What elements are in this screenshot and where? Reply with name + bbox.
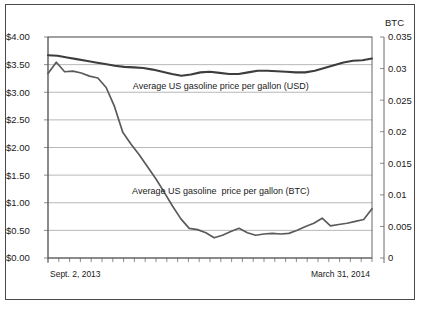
- y-axis-left-tick-label: $1.50: [6, 170, 30, 181]
- series-annotation-btc: Average US gasoline price per gallon (BT…: [132, 186, 309, 196]
- y-axis-left-tick-label: $4.00: [6, 31, 30, 42]
- y-axis-right-tick-label: 0.01: [388, 189, 407, 200]
- y-axis-left-tick-label: $3.00: [6, 87, 30, 98]
- y-axis-right-tick-label: 0.025: [388, 95, 412, 106]
- y-axis-left-tick-label: $0.00: [6, 252, 30, 263]
- y-axis-left-tick-label: $1.00: [6, 197, 30, 208]
- series-annotation-usd: Average US gasoline price per gallon (US…: [133, 81, 309, 91]
- line-chart-svg: $0.00$0.50$1.00$1.50$2.00$2.50$3.00$3.50…: [0, 0, 423, 311]
- y-axis-right-tick-label: 0.02: [388, 126, 407, 137]
- y-axis-right-tick-label: 0: [388, 252, 393, 263]
- x-axis-end-date-label: March 31, 2014: [311, 269, 370, 279]
- chart-root: $0.00$0.50$1.00$1.50$2.00$2.50$3.00$3.50…: [0, 0, 423, 311]
- y-axis-left-tick-label: $2.50: [6, 114, 30, 125]
- y-axis-right-tick-label: 0.005: [388, 221, 412, 232]
- y-axis-left-tick-label: $0.50: [6, 225, 30, 236]
- y-axis-left-tick-label: $2.00: [6, 142, 30, 153]
- y-axis-right-tick-label: 0.035: [388, 31, 412, 42]
- y-axis-left-tick-label: $3.50: [6, 59, 30, 70]
- y-axis-right-tick-label: 0.015: [388, 158, 412, 169]
- y-axis-right-unit-label: BTC: [385, 17, 404, 28]
- series-line-usd: [48, 55, 372, 75]
- x-axis-start-date-label: Sept. 2, 2013: [50, 269, 101, 279]
- y-axis-right-tick-label: 0.03: [388, 63, 407, 74]
